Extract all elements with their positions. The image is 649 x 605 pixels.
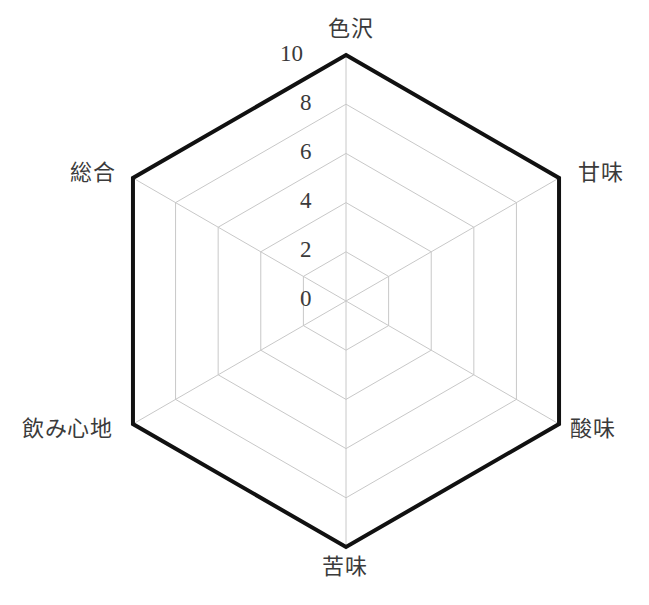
axis-label-nigami: 苦味 <box>322 556 367 578</box>
radial-tick-label-8: 8 <box>300 91 312 114</box>
radial-tick-label-6: 6 <box>300 140 312 163</box>
radar-chart-canvas <box>0 0 649 605</box>
axis-label-nomigokochi: 飲み心地 <box>22 418 112 440</box>
radial-tick-label-4: 4 <box>300 189 312 212</box>
axis-label-shikitaku: 色沢 <box>328 18 373 40</box>
chart-background <box>0 0 649 605</box>
axis-label-sanmi: 酸味 <box>570 418 615 440</box>
radar-chart: 色沢甘味酸味苦味飲み心地総合 1086420 <box>0 0 649 605</box>
radial-tick-label-2: 2 <box>300 238 312 261</box>
axis-label-sougou: 総合 <box>70 162 115 184</box>
axis-label-kanmi: 甘味 <box>578 162 623 184</box>
radial-tick-label-0: 0 <box>300 287 312 310</box>
radial-tick-label-10: 10 <box>280 42 303 65</box>
